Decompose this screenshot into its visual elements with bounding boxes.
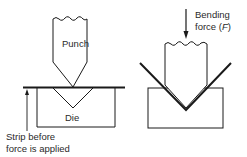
strip-pointer-arrow-icon <box>25 89 29 131</box>
force-arrow-icon <box>184 9 189 39</box>
force-label-prefix: force ( <box>195 21 223 32</box>
force-label-line1: Bending <box>195 9 230 20</box>
left-figure-before-bending: Punch Die Strip before force is applied <box>6 17 125 154</box>
bending-diagram: Punch Die Strip before force is applied … <box>0 0 247 157</box>
right-figure-after-bending: Bending force (F) <box>140 9 231 128</box>
force-label-suffix: ) <box>228 21 231 32</box>
punch-label: Punch <box>62 38 89 49</box>
strip-caption-line2: force is applied <box>6 143 70 154</box>
strip-caption-line1: Strip before <box>6 131 55 142</box>
force-label-line2: force (F) <box>195 21 231 32</box>
die-label: Die <box>65 112 79 123</box>
left-punch <box>53 17 87 87</box>
